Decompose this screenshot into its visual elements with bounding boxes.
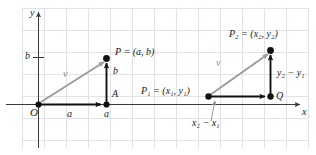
vector-v-left-label: v — [63, 69, 67, 79]
point-Q-label: Q — [276, 91, 283, 101]
vector-v-right-label: v — [216, 58, 220, 68]
component-a-label: a — [67, 109, 72, 119]
point-P1-label: P₁ = (x₁, y₁) — [141, 86, 190, 96]
point-P-dot — [103, 55, 110, 62]
point-P-label: P = (a, b) — [115, 47, 154, 57]
point-P2-label: P₂ = (x₂, y₂) — [229, 29, 278, 39]
component-dx-label: x₂ − x₁ — [192, 118, 220, 128]
point-A-dot — [103, 101, 109, 107]
component-b-label: b — [113, 66, 118, 76]
component-dy-label: y₂ − y₁ — [277, 68, 305, 78]
vector-components-diagram: y x O b P = (a, b) A v a a b P₂ = (x₂, y… — [0, 0, 316, 155]
origin-label: O — [30, 107, 38, 118]
diagram-canvas — [0, 0, 316, 155]
x-axis-label: x — [302, 107, 306, 117]
y-axis-tick-label-b: b — [25, 51, 30, 61]
y-axis-label: y — [30, 8, 34, 18]
point-P1-dot — [205, 93, 211, 99]
point-Q-dot — [267, 93, 273, 99]
x-axis-foot-label-a: a — [104, 109, 109, 119]
left-triangle-group — [35, 55, 110, 108]
point-A-label: A — [112, 89, 118, 99]
point-P2-dot — [267, 47, 274, 54]
